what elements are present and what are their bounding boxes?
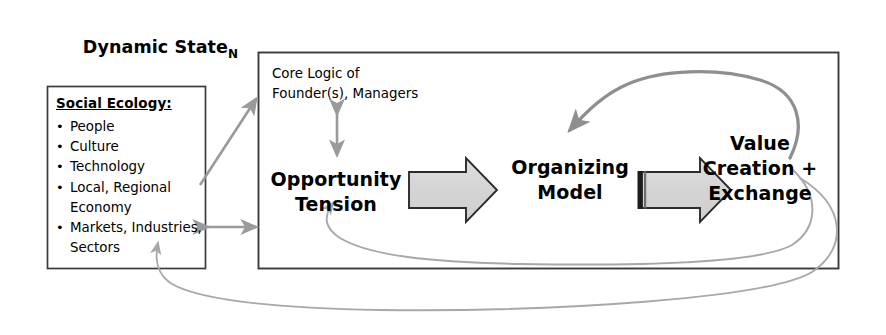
list-item: People: [56, 117, 224, 137]
stage-label-opportunity-tension: Opportunity Tension: [268, 167, 404, 217]
list-item: Markets, Industries, Sectors: [56, 218, 224, 258]
social-ecology-list: People Culture Technology Local, Regiona…: [56, 117, 224, 258]
social-ecology-heading: Social Ecology:: [56, 95, 172, 111]
stage-label-value-creation: Value Creation + Exchange: [700, 131, 820, 206]
page-title-main: Dynamic State: [83, 37, 228, 57]
page-title-subscript: N: [228, 47, 238, 61]
diagram-canvas: Dynamic StateN Social Ecology: People Cu…: [0, 0, 886, 335]
list-item: Technology: [56, 157, 224, 177]
page-title: Dynamic StateN: [58, 17, 238, 81]
block-arrow-opportunity-to-organizing: [409, 158, 497, 222]
core-logic-label: Core Logic of Founder(s), Managers: [272, 64, 418, 104]
list-item: Local, Regional Economy: [56, 178, 224, 218]
stage-label-organizing-model: Organizing Model: [500, 155, 640, 205]
list-item: Culture: [56, 137, 224, 157]
